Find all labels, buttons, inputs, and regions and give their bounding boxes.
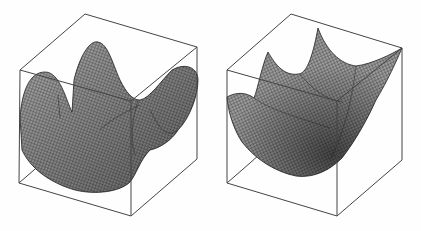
left-surface-shadow: [20, 42, 198, 193]
right-plot: [227, 14, 402, 216]
left-plot: [19, 14, 198, 216]
figure-canvas: [0, 0, 421, 231]
